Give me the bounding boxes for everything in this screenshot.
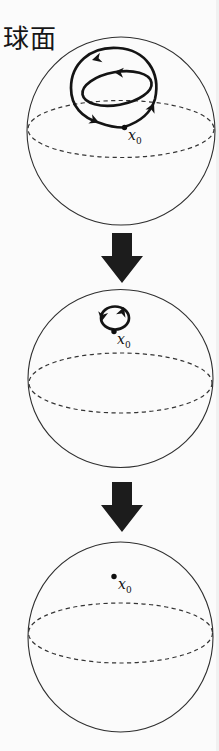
loop-arrowhead-topleft-icon	[91, 53, 103, 65]
figure-canvas: 球面 x0 x0 x0	[0, 0, 219, 751]
base-point-dot-2	[111, 329, 116, 334]
sphere-outline-2	[28, 290, 213, 468]
base-point-label-1-x: x	[128, 127, 136, 143]
equator-dashed-ellipse-1	[28, 101, 214, 158]
panel-sphere-point	[28, 542, 213, 732]
equator-dashed-ellipse-3	[29, 603, 213, 663]
small-loop-ellipse	[101, 307, 129, 330]
base-point-label-1-sub: 0	[136, 136, 142, 146]
base-point-dot-1	[122, 125, 127, 130]
base-point-label-3: x0	[118, 577, 132, 595]
sphere-outline-1	[27, 37, 215, 225]
base-point-dot-3	[111, 574, 116, 579]
base-point-label-3-x: x	[118, 576, 126, 592]
scan-edge-artifact	[216, 0, 219, 751]
down-arrow-icon-1	[101, 233, 143, 283]
base-point-label-2-x: x	[117, 331, 125, 347]
figure-title: 球面	[3, 24, 57, 54]
down-arrow-icon-2	[101, 482, 143, 532]
sphere-outline-3	[28, 542, 213, 732]
panel-sphere-small-loop	[28, 290, 213, 468]
base-point-label-2: x0	[117, 332, 131, 350]
base-point-label-2-sub: 0	[125, 340, 131, 350]
panel-sphere-double-loop	[27, 37, 215, 225]
base-point-label-3-sub: 0	[126, 585, 132, 595]
base-point-label-1: x0	[128, 128, 142, 146]
equator-dashed-ellipse-2	[29, 353, 212, 413]
sphere-homotopy-diagram	[0, 0, 219, 751]
